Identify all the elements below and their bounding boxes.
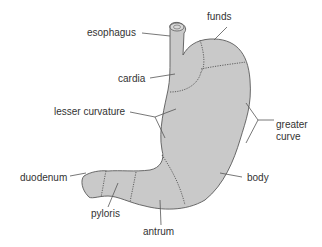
label-cardia: cardia	[118, 73, 146, 84]
label-pyloris: pyloris	[91, 208, 120, 219]
esophagus-opening	[170, 23, 184, 31]
label-greater-line2: curve	[276, 131, 301, 142]
label-funds: funds	[207, 11, 231, 22]
leader-funds	[214, 27, 227, 40]
label-body: body	[247, 172, 269, 183]
leader-esophagus	[142, 33, 170, 36]
label-esophagus: esophagus	[87, 27, 136, 38]
label-greater-line1: greater	[276, 119, 308, 130]
stomach-diagram: esophagus funds cardia lesser curvature …	[0, 0, 322, 247]
stomach-illustration: esophagus funds cardia lesser curvature …	[0, 0, 322, 247]
label-duodenum: duodenum	[20, 172, 67, 183]
label-lesser-curvature: lesser curvature	[54, 106, 126, 117]
leader-duodenum	[70, 173, 86, 176]
label-antrum: antrum	[143, 226, 174, 237]
